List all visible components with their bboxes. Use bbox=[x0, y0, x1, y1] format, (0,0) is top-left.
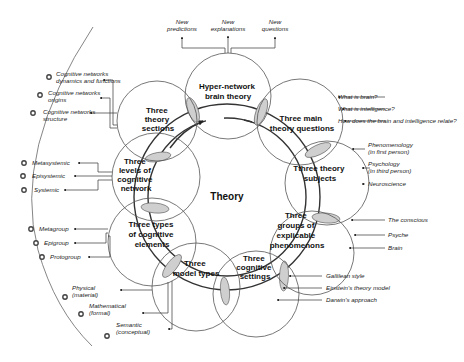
svg-text:Semantic(conceptual): Semantic(conceptual) bbox=[116, 321, 150, 335]
label-hyper-network: Hyper-network brain theory bbox=[199, 82, 257, 101]
svg-text:Systemic: Systemic bbox=[34, 186, 60, 193]
svg-text:Protogroup: Protogroup bbox=[50, 253, 81, 260]
label-cognitive-levels: Three levels of cognitive network bbox=[117, 157, 154, 193]
svg-text:Gallilean style: Gallilean style bbox=[326, 272, 365, 279]
svg-text:Psychology(in third person): Psychology(in third person) bbox=[368, 160, 411, 174]
center-label: Theory bbox=[210, 191, 244, 202]
svg-text:Einstein's theory model: Einstein's theory model bbox=[326, 284, 390, 291]
svg-text:Cognitive networksstructure: Cognitive networksstructure bbox=[43, 108, 95, 122]
svg-text:Darwin's approach: Darwin's approach bbox=[326, 296, 378, 303]
svg-text:How does the brain and intelli: How does the brain and intelligence rela… bbox=[338, 117, 457, 124]
svg-text:What is intelligence?: What is intelligence? bbox=[338, 105, 395, 112]
svg-text:Phenomenology(in first person): Phenomenology(in first person) bbox=[368, 141, 414, 155]
svg-text:Neuroscience: Neuroscience bbox=[368, 180, 406, 187]
svg-text:Metasystemic: Metasystemic bbox=[32, 159, 71, 166]
right-labels: What is brain? What is intelligence? How… bbox=[326, 93, 457, 303]
svg-text:Episystemic: Episystemic bbox=[32, 172, 66, 179]
top-output-connectors bbox=[182, 36, 275, 53]
label-theory-subjects: Tthree theory subjects bbox=[293, 164, 346, 183]
svg-text:Cognitive networksdynamics and: Cognitive networksdynamics and functions bbox=[56, 70, 121, 84]
svg-text:Brain: Brain bbox=[388, 244, 403, 251]
top-outputs: Newpredictions Newexplanations Newquesti… bbox=[166, 18, 288, 32]
label-theory-questions: Three main theory questions bbox=[270, 114, 335, 133]
svg-text:The conscious: The conscious bbox=[388, 216, 428, 223]
svg-text:Psyche: Psyche bbox=[388, 231, 409, 238]
label-theory-sections: Three theory sections bbox=[142, 106, 175, 133]
svg-text:Cognitive networksorigins: Cognitive networksorigins bbox=[48, 89, 100, 103]
cycle-arrow bbox=[170, 121, 203, 148]
svg-text:What is brain?: What is brain? bbox=[338, 93, 378, 100]
svg-text:Newpredictions: Newpredictions bbox=[166, 18, 197, 32]
svg-text:Newquestions: Newquestions bbox=[262, 18, 289, 32]
svg-text:Physical(material): Physical(material) bbox=[72, 284, 98, 298]
svg-text:Mathematical(formal): Mathematical(formal) bbox=[89, 302, 126, 316]
label-cognitive-elements: Three types of cognitive elements bbox=[128, 220, 175, 249]
svg-text:Newexplanations: Newexplanations bbox=[211, 18, 246, 32]
label-cognitive-settings: Three cognitive settings bbox=[236, 254, 273, 281]
svg-text:Epigroup: Epigroup bbox=[44, 239, 69, 246]
svg-text:Metagroup: Metagroup bbox=[39, 225, 69, 232]
hyper-network-theory-diagram: Theory Hyper-network brain theory Three … bbox=[0, 0, 464, 362]
